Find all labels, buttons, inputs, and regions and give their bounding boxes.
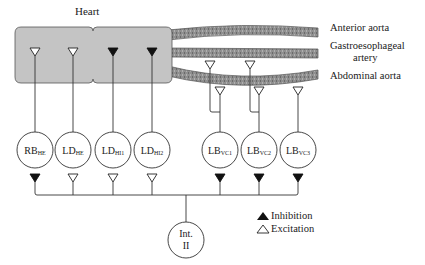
legend-inhibition-label: Inhibition [271,210,312,222]
excitation-triangle-icon [108,174,118,182]
inhibition-triangle-icon [293,174,303,182]
excitation-triangle-icon [68,174,78,182]
legend-excitation-icon [257,225,269,233]
legend-excitation-label: Excitation [271,223,314,235]
gastroesophageal-artery [168,48,318,58]
excitation-triangle-icon [215,87,225,95]
excitation-triangle-icon [254,87,264,95]
interneuron-bus [35,182,298,222]
legend-inhibition-icon [257,212,269,220]
interneuron-label-line1: Int. [179,228,193,239]
excitation-triangle-icon [293,87,303,95]
excitation-triangle-icon [245,61,255,69]
anterior-aorta-label: Anterior aorta [330,22,389,34]
gastroesophageal-label: Gastroesophageal [330,40,405,52]
excitation-triangle-icon [205,61,215,69]
excitation-triangle-icon [147,174,157,182]
inhibition-triangle-icon [30,174,40,182]
artery-label: artery [353,52,377,64]
inhibition-triangle-icon [254,174,264,182]
output-synapses [30,174,303,182]
heart [15,27,172,83]
interneuron-label-line2: II [183,240,190,251]
heart-title: Heart [75,5,99,17]
inhibition-triangle-icon [215,174,225,182]
anterior-aorta [168,25,318,40]
vessels [168,25,318,85]
abdominal-aorta-label: Abdominal aorta [330,70,401,82]
abdominal-aorta [168,66,318,85]
